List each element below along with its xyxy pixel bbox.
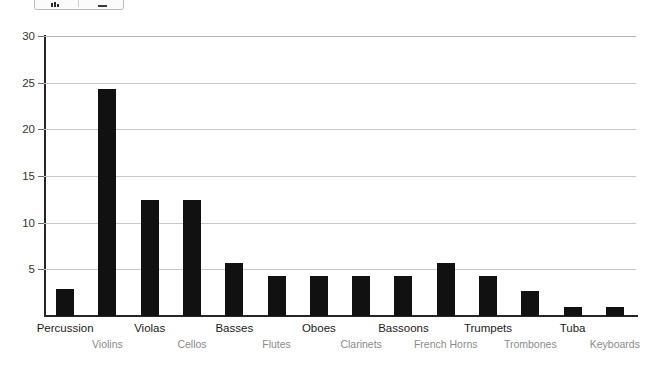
x-axis-label: Basses [215,322,253,334]
bar [310,276,328,316]
x-axis-label: Percussion [37,322,94,334]
x-axis-label: Cellos [177,338,206,350]
horizontal-line-icon[interactable] [86,0,120,7]
y-axis-tick-label: 5 [29,263,35,275]
bar-chart-icon[interactable] [38,0,72,7]
bar-series [44,36,636,316]
x-axis-label: Bassoons [378,322,429,334]
bar-chart-glyph [51,2,59,7]
y-axis-tick-label: 15 [22,170,35,182]
x-axis-label: Trombones [504,338,557,350]
plot-area: 51015202530 [44,36,636,316]
y-axis-tick-label: 10 [22,217,35,229]
x-axis-label: Oboes [302,322,336,334]
bar [564,307,582,316]
bar [521,291,539,316]
chart-toolbar[interactable] [34,0,124,10]
y-axis-tick-label: 30 [22,30,35,42]
y-axis-tick-label: 25 [22,77,35,89]
x-axis-labels: PercussionViolinsViolasCellosBassesFlute… [44,317,638,372]
x-axis-label: Tuba [560,322,586,334]
x-axis-label: Violas [134,322,165,334]
bar [225,263,243,316]
toolbar-divider [78,0,79,7]
bar [268,276,286,316]
bar [479,276,497,316]
bar [183,200,201,316]
bar [141,200,159,316]
bar [606,307,624,316]
horizontal-line-glyph [98,5,107,7]
bar [394,276,412,316]
x-axis-label: Clarinets [340,338,381,350]
bar [98,89,116,316]
bar [352,276,370,316]
y-axis-tick-label: 20 [22,123,35,135]
x-axis-label: French Horns [414,338,478,350]
x-axis-label: Violins [92,338,123,350]
x-axis-label: Flutes [262,338,291,350]
x-axis-label: Keyboards [590,338,640,350]
bar-chart: 51015202530 PercussionViolinsViolasCello… [0,0,670,374]
bar [56,289,74,316]
bar [437,263,455,316]
x-axis-label: Trumpets [464,322,512,334]
